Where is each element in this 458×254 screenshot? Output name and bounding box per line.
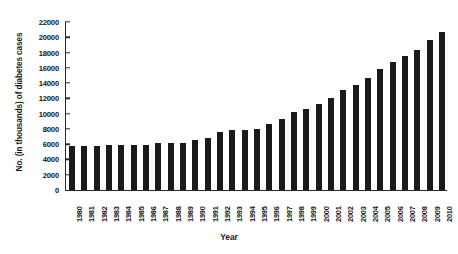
bar [279, 119, 285, 190]
bar [439, 32, 445, 190]
y-tick-label: 2000 [43, 170, 59, 179]
x-axis-title: Year [0, 232, 458, 242]
bar [118, 145, 124, 190]
y-axis-tick [65, 128, 70, 129]
y-axis-tick [65, 82, 70, 83]
bar [217, 132, 223, 190]
x-tick-label: 1990 [198, 206, 207, 222]
y-tick-label: 14000 [39, 79, 59, 88]
x-tick-label: 1993 [235, 206, 244, 222]
y-axis-tick [65, 67, 70, 68]
x-tick-label: 1988 [174, 206, 183, 222]
x-tick-label: 2006 [396, 206, 405, 222]
bar [205, 138, 211, 190]
bar [377, 69, 383, 190]
y-axis-tick [65, 21, 70, 22]
bar [254, 129, 260, 190]
y-axis-tick [65, 174, 70, 175]
bar [143, 145, 149, 190]
x-tick-label: 2001 [334, 206, 343, 222]
bar [414, 50, 420, 190]
x-tick-label: 1998 [297, 206, 306, 222]
y-axis-tick-labels: 0200040006000800010000120001400016000180… [20, 0, 62, 254]
y-tick-label: 0 [55, 186, 59, 195]
y-tick-label: 20000 [39, 33, 59, 42]
y-axis-tick [65, 113, 70, 114]
x-tick-label: 1983 [112, 206, 121, 222]
y-axis-tick [65, 52, 70, 53]
bar [402, 56, 408, 190]
bar-chart: No. (in thousands) of diabetes cases 020… [0, 0, 458, 254]
bar [69, 146, 75, 190]
bar [266, 124, 272, 190]
y-tick-label: 4000 [43, 155, 59, 164]
x-tick-label: 1987 [161, 206, 170, 222]
y-tick-label: 16000 [39, 63, 59, 72]
x-tick-label: 1999 [309, 206, 318, 222]
bar [365, 78, 371, 190]
x-axis-tick-labels: 1980198119821983198419851986198719881989… [66, 192, 448, 226]
y-axis-tick [65, 37, 70, 38]
bar [180, 143, 186, 190]
y-axis-tick [65, 143, 70, 144]
x-tick-label: 1996 [272, 206, 281, 222]
bar [131, 145, 137, 190]
x-tick-label: 2005 [383, 206, 392, 222]
y-tick-label: 10000 [39, 109, 59, 118]
bar [353, 85, 359, 190]
x-tick-label: 1980 [75, 206, 84, 222]
x-tick-label: 1981 [87, 206, 96, 222]
x-tick-label: 2008 [420, 206, 429, 222]
x-tick-label: 2009 [433, 206, 442, 222]
x-tick-label: 1986 [149, 206, 158, 222]
bar [340, 90, 346, 190]
x-tick-label: 2000 [322, 206, 331, 222]
y-tick-label: 22000 [39, 18, 59, 27]
bar [427, 40, 433, 190]
x-tick-label: 2003 [359, 206, 368, 222]
x-tick-label: 1994 [248, 206, 257, 222]
bar [155, 143, 161, 190]
bar [81, 146, 87, 190]
plot-area [66, 22, 448, 190]
bar [328, 98, 334, 190]
bar [303, 109, 309, 190]
bar [192, 140, 198, 190]
y-tick-label: 8000 [43, 124, 59, 133]
x-tick-label: 1997 [285, 206, 294, 222]
y-tick-label: 6000 [43, 140, 59, 149]
x-tick-label: 1989 [186, 206, 195, 222]
bar [242, 130, 248, 190]
bar [316, 104, 322, 190]
bar [229, 130, 235, 190]
x-tick-label: 1982 [100, 206, 109, 222]
bar [94, 146, 100, 190]
x-tick-label: 1985 [137, 206, 146, 222]
bar [291, 112, 297, 190]
x-tick-label: 1992 [223, 206, 232, 222]
x-tick-label: 2010 [445, 206, 454, 222]
x-tick-label: 2004 [371, 206, 380, 222]
x-tick-label: 1995 [260, 206, 269, 222]
bar [390, 62, 396, 190]
bar [168, 143, 174, 190]
x-tick-label: 1984 [124, 206, 133, 222]
y-axis-tick [65, 159, 70, 160]
x-tick-label: 2002 [346, 206, 355, 222]
y-tick-label: 18000 [39, 48, 59, 57]
y-axis-tick [65, 98, 70, 99]
y-tick-label: 12000 [39, 94, 59, 103]
x-tick-label: 1991 [211, 206, 220, 222]
bar [106, 145, 112, 190]
x-tick-label: 2007 [408, 206, 417, 222]
